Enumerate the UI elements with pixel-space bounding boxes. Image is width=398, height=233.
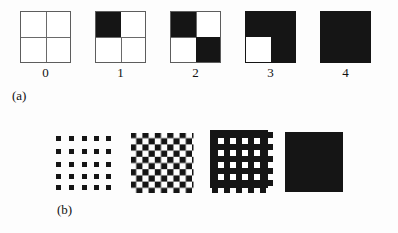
quadrant-top-right <box>46 12 71 37</box>
quadrant-square-box <box>245 11 296 63</box>
panel-caption-a: (a) <box>12 88 26 104</box>
dot-grid-icon <box>54 134 112 191</box>
quadrant-top-left <box>21 12 46 37</box>
quadrant-square-0: 0 <box>20 11 71 63</box>
quadrant-top-right <box>346 12 371 37</box>
panel-a: 0 1 <box>0 0 398 108</box>
quadrant-square-3: 3 <box>245 11 296 63</box>
texture-mesh-holes <box>210 130 274 194</box>
figure-root: 0 1 <box>0 0 398 233</box>
quadrant-square-box <box>95 11 146 63</box>
quadrant-square-box <box>170 11 221 63</box>
panel-b: (b) <box>0 108 398 233</box>
quadrant-top-left <box>246 12 271 37</box>
texture-checkerboard <box>130 132 195 194</box>
quadrant-top-left <box>171 12 196 37</box>
quadrant-label-3: 3 <box>245 65 296 81</box>
quadrant-top-left <box>321 12 346 37</box>
quadrant-bottom-left <box>96 37 121 62</box>
panel-caption-b: (b) <box>57 202 72 218</box>
quadrant-square-box <box>20 11 71 63</box>
quadrant-top-right <box>271 12 296 37</box>
quadrant-top-right <box>196 12 221 37</box>
quadrant-label-4: 4 <box>320 65 371 81</box>
quadrant-bottom-right <box>346 37 371 62</box>
quadrant-square-box <box>320 11 371 63</box>
quadrant-label-0: 0 <box>20 65 71 81</box>
quadrant-label-2: 2 <box>170 65 221 81</box>
quadrant-bottom-left <box>171 37 196 62</box>
checkerboard-icon <box>130 132 195 194</box>
texture-dot-grid <box>54 134 112 191</box>
quadrant-square-4: 4 <box>320 11 371 63</box>
quadrant-square-2: 2 <box>170 11 221 63</box>
quadrant-bottom-left <box>21 37 46 62</box>
quadrant-bottom-right <box>271 37 296 62</box>
quadrant-bottom-right <box>196 37 221 62</box>
quadrant-bottom-right <box>46 37 71 62</box>
quadrant-bottom-left <box>321 37 346 62</box>
texture-solid <box>285 132 343 192</box>
solid-black-swatch <box>285 132 343 192</box>
quadrant-top-left <box>96 12 121 37</box>
quadrant-bottom-right <box>121 37 146 62</box>
mesh-holes-icon <box>210 130 274 194</box>
quadrant-label-1: 1 <box>95 65 146 81</box>
quadrant-top-right <box>121 12 146 37</box>
quadrant-bottom-left <box>246 37 271 62</box>
quadrant-square-1: 1 <box>95 11 146 63</box>
